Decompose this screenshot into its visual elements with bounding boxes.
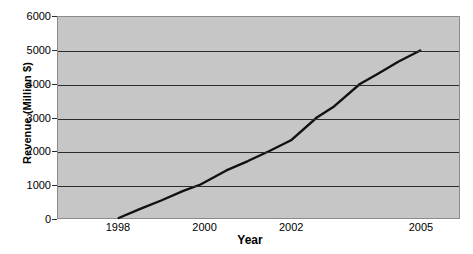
y-tick-label: 6000 — [5, 11, 51, 22]
y-tick-mark — [52, 16, 57, 17]
gridline — [58, 186, 459, 187]
revenue-line-chart: Revenue (Million $) 01000200030004000500… — [0, 0, 473, 254]
x-tick-label: 2000 — [175, 221, 235, 233]
y-axis-tick-labels: 0100020003000400050006000 — [0, 0, 51, 254]
y-tick-mark — [52, 50, 57, 51]
y-tick-mark — [52, 84, 57, 85]
x-tick-label: 1998 — [88, 221, 148, 233]
gridline — [58, 85, 459, 86]
y-tick-label: 3000 — [5, 112, 51, 123]
gridline — [58, 51, 459, 52]
plot-area — [57, 16, 460, 219]
x-axis-title: Year — [210, 233, 290, 247]
y-tick-label: 2000 — [5, 146, 51, 157]
x-tick-label: 2005 — [391, 221, 451, 233]
gridline — [58, 119, 459, 120]
x-tick-label: 2002 — [261, 221, 321, 233]
y-tick-label: 4000 — [5, 78, 51, 89]
y-tick-label: 1000 — [5, 180, 51, 191]
y-tick-mark — [52, 151, 57, 152]
y-tick-mark — [52, 185, 57, 186]
series-revenue — [58, 17, 459, 218]
y-tick-mark — [52, 118, 57, 119]
y-tick-mark — [52, 219, 57, 220]
y-tick-label: 5000 — [5, 44, 51, 55]
gridline — [58, 152, 459, 153]
data-line — [119, 50, 420, 218]
